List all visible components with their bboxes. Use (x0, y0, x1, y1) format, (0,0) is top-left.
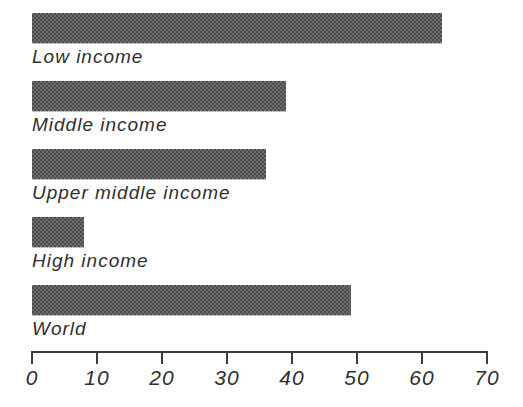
bar-row: Low income (32, 13, 502, 81)
tick-mark (486, 351, 488, 364)
tick-label: 40 (279, 366, 304, 390)
tick-mark (31, 351, 33, 364)
bar-label: World (32, 318, 502, 340)
tick-mark (96, 351, 98, 364)
bar-row: High income (32, 217, 502, 285)
tick-mark (161, 351, 163, 364)
bar-label: Upper middle income (32, 182, 502, 204)
tick-label: 60 (409, 366, 434, 390)
tick-label: 70 (474, 366, 499, 390)
bar-label: Low income (32, 46, 502, 68)
bar-label: High income (32, 250, 502, 272)
tick-mark (291, 351, 293, 364)
plot-area: Low income Middle income Upper middle in… (32, 13, 502, 353)
bar-row: Upper middle income (32, 149, 502, 217)
tick-mark (226, 351, 228, 364)
bar (32, 81, 286, 111)
tick-mark (356, 351, 358, 364)
tick-mark (421, 351, 423, 364)
x-axis: 0 10 20 30 40 50 60 70 (32, 351, 488, 401)
tick-label: 20 (149, 366, 174, 390)
tick-label: 50 (344, 366, 369, 390)
tick-label: 30 (214, 366, 239, 390)
x-axis-line (32, 351, 488, 353)
tick-label: 0 (26, 366, 39, 390)
bar-label: Middle income (32, 114, 502, 136)
bar (32, 13, 442, 43)
bar-chart-figure: Low income Middle income Upper middle in… (0, 0, 523, 407)
bar-row: Middle income (32, 81, 502, 149)
bar-row: World (32, 285, 502, 353)
bar (32, 217, 84, 247)
tick-label: 10 (84, 366, 109, 390)
bar (32, 149, 266, 179)
bar (32, 285, 351, 315)
